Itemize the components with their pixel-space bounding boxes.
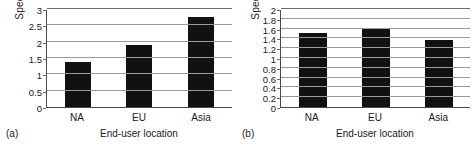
gridline xyxy=(47,24,232,25)
bar-group xyxy=(281,10,470,107)
gridline xyxy=(47,73,232,74)
y-axis-tick-mark xyxy=(277,10,280,11)
y-axis-tick-label: 3 xyxy=(20,6,42,15)
figure-bar-charts: Speedup 32.521.510.50 NAEUAsia End-user … xyxy=(0,0,475,146)
x-axis-category-label: EU xyxy=(114,112,164,124)
y-axis-tick-mark xyxy=(43,10,46,11)
x-axis-category-labels: NAEUAsia xyxy=(46,112,232,124)
chart-panel-a: Speedup 32.521.510.50 NAEUAsia End-user … xyxy=(0,0,237,146)
y-axis-tick-mark xyxy=(277,20,280,21)
x-axis-category-label: NA xyxy=(287,112,337,124)
bar xyxy=(126,45,152,107)
plot-area xyxy=(46,10,232,108)
x-axis-category-label: Asia xyxy=(176,112,226,124)
panel-caption: (b) xyxy=(242,128,254,140)
y-axis-tick-label: 1 xyxy=(252,55,276,64)
y-axis-tick-label: 2 xyxy=(20,38,42,47)
gridline xyxy=(47,41,232,42)
y-axis-tick-mark xyxy=(43,26,46,27)
y-axis-tick-mark xyxy=(277,98,280,99)
y-axis-tick-mark xyxy=(43,108,46,109)
gridline xyxy=(281,96,470,97)
gridline xyxy=(281,37,470,38)
y-axis-tick-mark xyxy=(277,59,280,60)
y-axis-tick-label: 0 xyxy=(20,104,42,113)
gridline xyxy=(281,18,470,19)
y-axis-tick-labels: 32.521.510.50 xyxy=(20,10,42,108)
x-axis-title: End-user location xyxy=(280,128,470,140)
plot-area xyxy=(280,10,470,108)
x-axis-category-label: EU xyxy=(350,112,400,124)
gridline xyxy=(281,47,470,48)
y-axis-tick-label: 1 xyxy=(20,71,42,80)
y-axis-tick-mark xyxy=(277,49,280,50)
y-axis-tick-mark xyxy=(43,92,46,93)
chart-panel-b: Speedup 21.81.61.41.210.80.60.40.20 NAEU… xyxy=(238,0,475,146)
y-axis-tick-label: 0 xyxy=(252,104,276,113)
x-axis-category-label: NA xyxy=(52,112,102,124)
gridline xyxy=(281,86,470,87)
y-axis-tick-label: 0.4 xyxy=(252,84,276,93)
bar xyxy=(65,62,91,107)
y-axis-tick-label: 1.6 xyxy=(252,25,276,34)
gridline xyxy=(281,8,470,9)
y-axis-tick-mark xyxy=(43,43,46,44)
y-axis-tick-label: 0.8 xyxy=(252,64,276,73)
y-axis-tick-label: 1.4 xyxy=(252,35,276,44)
x-axis-category-label: Asia xyxy=(413,112,463,124)
y-axis-tick-label: 1.2 xyxy=(252,45,276,54)
y-axis-tick-label: 0.6 xyxy=(252,74,276,83)
gridline xyxy=(281,67,470,68)
y-axis-tick-label: 1.8 xyxy=(252,15,276,24)
bar xyxy=(188,17,214,107)
y-axis-tick-mark xyxy=(277,108,280,109)
y-axis-tick-mark xyxy=(277,39,280,40)
gridline xyxy=(281,28,470,29)
y-axis-tick-label: 0.5 xyxy=(20,87,42,96)
x-axis-category-labels: NAEUAsia xyxy=(280,112,470,124)
y-axis-tick-mark xyxy=(43,75,46,76)
y-axis-tick-labels: 21.81.61.41.210.80.60.40.20 xyxy=(252,10,276,108)
gridline xyxy=(47,57,232,58)
gridline xyxy=(47,8,232,9)
y-axis-tick-mark xyxy=(277,88,280,89)
gridline xyxy=(281,57,470,58)
y-axis-tick-label: 2 xyxy=(252,6,276,15)
y-axis-tick-label: 0.2 xyxy=(252,94,276,103)
y-axis-tick-label: 2.5 xyxy=(20,22,42,31)
panel-caption: (a) xyxy=(6,128,18,140)
y-axis-tick-label: 1.5 xyxy=(20,55,42,64)
gridline xyxy=(281,77,470,78)
gridline xyxy=(47,90,232,91)
y-axis-tick-mark xyxy=(277,69,280,70)
x-axis-title: End-user location xyxy=(46,128,232,140)
y-axis-tick-mark xyxy=(277,79,280,80)
y-axis-tick-mark xyxy=(43,59,46,60)
y-axis-tick-mark xyxy=(277,30,280,31)
